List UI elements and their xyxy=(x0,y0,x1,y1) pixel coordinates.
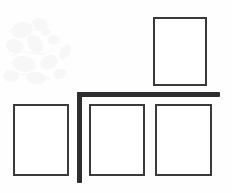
panel-bottom-middle xyxy=(89,104,145,176)
divider-bar-vertical xyxy=(77,92,82,183)
watermark-texture xyxy=(2,12,76,88)
panel-bottom-right xyxy=(155,104,212,176)
panel-bottom-left xyxy=(13,104,69,176)
panel-top-right xyxy=(153,17,207,86)
divider-bar-horizontal xyxy=(77,92,220,97)
diagram-canvas xyxy=(0,0,232,193)
